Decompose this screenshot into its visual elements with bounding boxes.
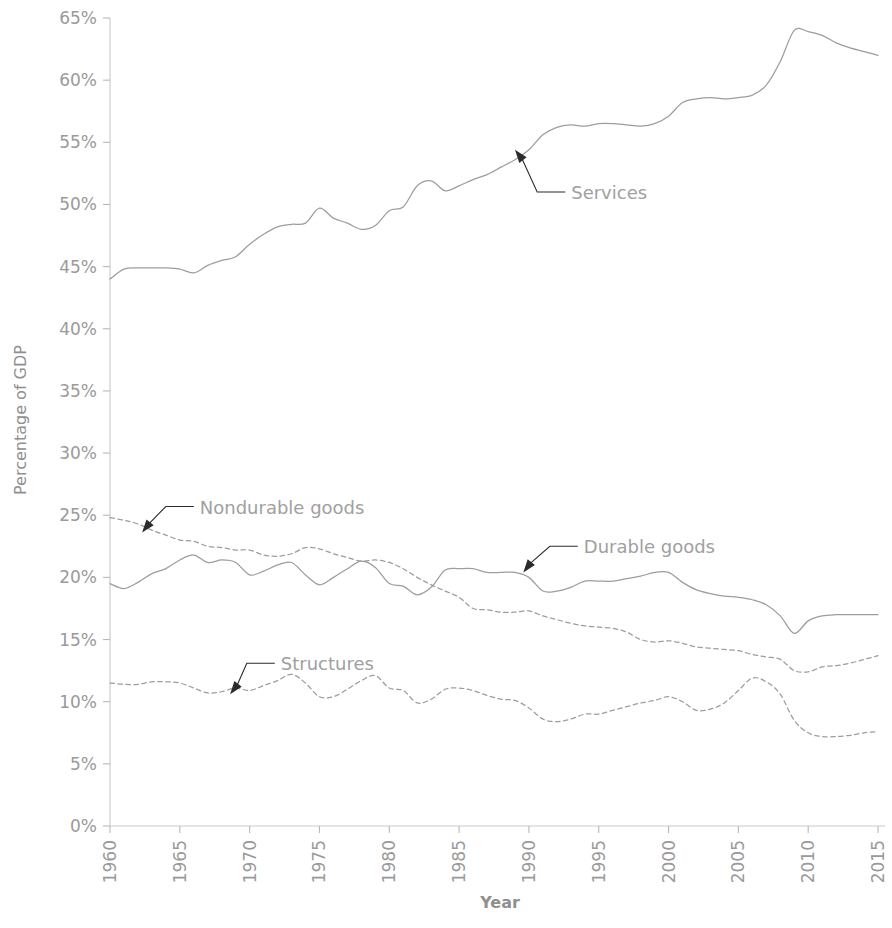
y-tick-label: 40% [59,319,97,339]
x-tick-label: 1980 [379,840,399,883]
y-tick-label: 35% [59,381,97,401]
annotation-services: Services [515,150,647,203]
annotation-durable-goods: Durable goods [523,536,715,572]
series-line-structures [110,674,878,737]
x-tick-label: 1990 [519,840,539,883]
gdp-composition-chart: 0%5%10%15%20%25%30%35%40%45%50%55%60%65%… [0,0,892,928]
series-line-durable-goods [110,555,878,633]
y-tick-label: 5% [70,754,97,774]
series-group [110,28,878,736]
x-axis: 1960196519701975198019851990199520002005… [100,826,888,883]
annotation-group: ServicesNondurable goodsDurable goodsStr… [142,150,715,694]
x-tick-label: 2000 [659,840,679,883]
x-tick-label: 1970 [240,840,260,883]
y-tick-label: 25% [59,505,97,525]
annotation-label: Structures [281,653,374,674]
y-tick-label: 45% [59,257,97,277]
x-axis-title: Year [479,893,520,912]
y-tick-label: 55% [59,132,97,152]
y-tick-label: 65% [59,8,97,28]
annotation-leader-line [149,507,194,524]
x-tick-label: 1975 [309,840,329,883]
x-tick-label: 1985 [449,840,469,883]
y-tick-label: 30% [59,443,97,463]
annotation-structures: Structures [230,653,374,694]
y-tick-label: 20% [59,567,97,587]
y-axis-title: Percentage of GDP [11,345,30,495]
x-tick-label: 1965 [170,840,190,883]
annotation-label: Nondurable goods [200,497,365,518]
y-tick-label: 10% [59,692,97,712]
x-tick-label: 2015 [868,840,888,883]
y-tick-label: 0% [70,816,97,836]
y-tick-label: 60% [59,70,97,90]
annotation-leader-line [237,663,275,685]
annotation-nondurable-goods: Nondurable goods [142,497,364,533]
y-tick-group: 0%5%10%15%20%25%30%35%40%45%50%55%60%65% [59,8,110,836]
annotation-arrowhead [515,150,527,163]
annotation-leader-line [522,159,565,192]
annotation-arrowhead [230,681,242,694]
y-tick-label: 15% [59,630,97,650]
x-tick-group: 1960196519701975198019851990199520002005… [100,826,888,883]
annotation-leader-line [530,546,578,563]
x-tick-label: 1960 [100,840,120,883]
series-line-services [110,28,878,279]
annotation-label: Durable goods [584,536,715,557]
x-tick-label: 1995 [589,840,609,883]
x-tick-label: 2005 [728,840,748,883]
annotation-label: Services [571,182,647,203]
chart-svg: 0%5%10%15%20%25%30%35%40%45%50%55%60%65%… [0,0,892,928]
y-tick-label: 50% [59,194,97,214]
series-line-nondurable-goods [110,518,878,673]
x-tick-label: 2010 [798,840,818,883]
y-axis: 0%5%10%15%20%25%30%35%40%45%50%55%60%65% [59,8,110,836]
